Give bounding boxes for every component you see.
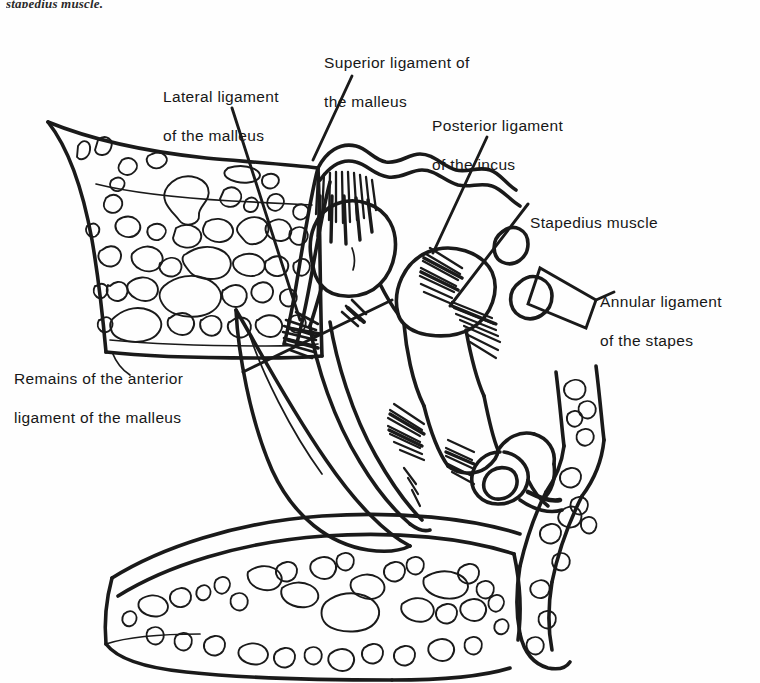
label-line-1: Lateral ligament — [163, 87, 279, 107]
leader-stapedius-muscle — [450, 204, 528, 306]
stapes — [472, 433, 562, 512]
ligament-fiber-burst-posterior — [420, 248, 462, 304]
label-line-2: of the stapes — [600, 331, 722, 351]
label-posterior-ligament-of-the-incus: Posterior ligament of the incus — [432, 96, 563, 194]
anatomy-figure: stapedius muscle. .s{fill:none;stroke:#1… — [0, 0, 760, 683]
label-line-1: Posterior ligament — [432, 116, 563, 136]
stapedius-tendon — [452, 302, 500, 358]
ligament-fiber-burst-incus-inferior — [446, 440, 474, 484]
label-line-2: ligament of the malleus — [14, 408, 183, 428]
label-line-1: Superior ligament of — [324, 53, 470, 73]
label-line-1: Annular ligament — [600, 292, 722, 312]
label-line-2: of the malleus — [163, 126, 279, 146]
incus-long-process — [424, 396, 498, 473]
incus-body — [396, 248, 495, 406]
label-remains-of-the-anterior-ligament-of-the-malleus: Remains of the anterior ligament of the … — [14, 349, 183, 447]
label-line-1: Stapedius muscle — [530, 213, 658, 233]
label-annular-ligament-of-the-stapes: Annular ligament of the stapes — [600, 272, 722, 370]
ligament-fiber-burst-umbo — [388, 404, 424, 506]
leader-annular-bracket — [528, 268, 596, 328]
label-line-1: Remains of the anterior — [14, 369, 183, 389]
inferior-temporal-bone-trabecular — [105, 514, 520, 680]
lateral-bone-trabecular — [517, 366, 604, 669]
label-lateral-ligament-of-the-malleus: Lateral ligament of the malleus — [163, 67, 279, 165]
label-line-2: of the incus — [432, 155, 563, 175]
label-stapedius-muscle: Stapedius muscle — [530, 193, 658, 252]
